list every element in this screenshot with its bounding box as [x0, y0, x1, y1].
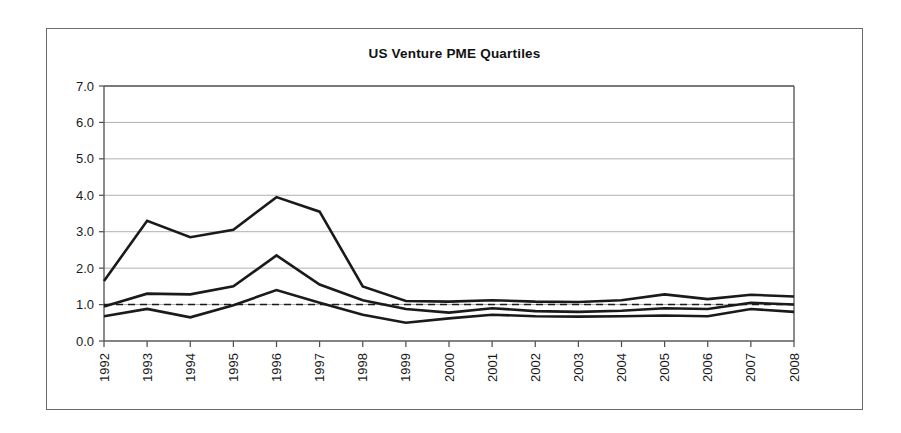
y-axis-tick-label: 6.0 — [76, 115, 94, 130]
y-axis-tick-label: 7.0 — [76, 79, 94, 94]
series-line — [104, 290, 794, 323]
y-axis-tick-label: 0.0 — [76, 334, 94, 349]
x-axis-tick-label: 2005 — [657, 353, 672, 382]
x-axis-tick-label: 2001 — [485, 353, 500, 382]
chart-figure-frame: US Venture PME Quartiles 0.01.02.03.04.0… — [46, 28, 863, 410]
y-axis-tick-label: 1.0 — [76, 297, 94, 312]
x-axis-tick-label: 2003 — [571, 353, 586, 382]
y-axis-labels-group: 0.01.02.03.04.05.06.07.0 — [76, 79, 94, 349]
gridlines-group — [104, 86, 794, 305]
y-axis-tick-label: 4.0 — [76, 188, 94, 203]
x-axis-tick-label: 1992 — [97, 353, 112, 382]
series-lines-group — [104, 197, 794, 323]
x-axis-tick-label: 1993 — [140, 353, 155, 382]
series-line — [104, 197, 794, 302]
y-axis-tick-label: 5.0 — [76, 151, 94, 166]
x-axis-tick-label: 2002 — [528, 353, 543, 382]
y-tickmarks-group — [99, 86, 104, 341]
x-axis-tick-label: 2000 — [442, 353, 457, 382]
x-axis-tick-label: 1998 — [355, 353, 370, 382]
y-axis-tick-label: 2.0 — [76, 261, 94, 276]
x-axis-tick-label: 1996 — [269, 353, 284, 382]
x-axis-tick-label: 2004 — [614, 353, 629, 382]
plot-area: 0.01.02.03.04.05.06.07.0 199219931994199… — [47, 29, 864, 411]
x-axis-tick-label: 2006 — [700, 353, 715, 382]
chart-svg: 0.01.02.03.04.05.06.07.0 199219931994199… — [47, 29, 864, 411]
series-line — [104, 255, 794, 312]
x-axis-tick-label: 2008 — [787, 353, 802, 382]
x-axis-labels-group: 1992199319941995199619971998199920002001… — [97, 353, 802, 382]
x-axis-tick-label: 1997 — [312, 353, 327, 382]
x-axis-tick-label: 2007 — [743, 353, 758, 382]
x-tickmarks-group — [104, 341, 794, 347]
x-axis-tick-label: 1999 — [398, 353, 413, 382]
x-axis-tick-label: 1994 — [183, 353, 198, 382]
y-axis-tick-label: 3.0 — [76, 224, 94, 239]
x-axis-tick-label: 1995 — [226, 353, 241, 382]
